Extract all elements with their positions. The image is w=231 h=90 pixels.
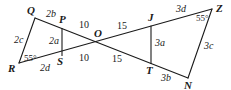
label-ZN: 3c (203, 40, 214, 51)
vertex-label-Q: Q (27, 4, 35, 16)
label-SO: 10 (79, 52, 89, 63)
vertex-label-O: O (94, 27, 102, 39)
label-PS: 2a (49, 35, 59, 46)
vertex-label-P: P (59, 13, 66, 25)
label-RS: 2d (40, 62, 51, 73)
label-OJ: 15 (117, 20, 127, 31)
line-QN (35, 18, 188, 78)
label-PO: 10 (79, 19, 89, 30)
label-TN: 3b (160, 72, 171, 83)
label-JZ: 3d (175, 3, 187, 14)
vertex-label-N: N (183, 79, 193, 90)
vertex-label-Z: Z (215, 2, 223, 14)
angle-label-Z: 55° (196, 13, 209, 23)
label-QP: 2b (46, 8, 56, 19)
geometry-diagram: Q P R S O J T Z N 2b 2c 2a 2d 10 10 15 1… (0, 0, 231, 90)
label-OT: 15 (112, 53, 122, 64)
label-QR: 2c (14, 34, 24, 45)
vertex-label-R: R (7, 62, 15, 74)
vertex-label-S: S (57, 55, 63, 67)
label-JT: 3a (154, 37, 165, 48)
vertex-label-J: J (147, 11, 154, 23)
vertex-label-T: T (146, 64, 154, 76)
angle-label-R: 55° (24, 53, 37, 63)
